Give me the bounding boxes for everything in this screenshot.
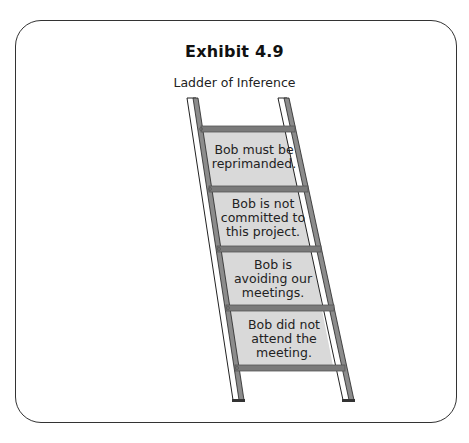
- ladder-rung-4: [209, 186, 308, 192]
- panel-line: attend the: [232, 332, 336, 346]
- ladder-rung-5: [201, 126, 295, 132]
- panel-line: avoiding our: [222, 272, 324, 286]
- ladder-panel-3-text: Bob is not committed to this project.: [214, 197, 312, 239]
- panel-line: Bob must be: [208, 143, 300, 157]
- ladder-rung-2: [226, 305, 334, 311]
- panel-line: meeting.: [232, 346, 336, 360]
- panel-line: reprimanded.: [208, 157, 300, 171]
- panel-line: Bob did not: [232, 318, 336, 332]
- panel-line: committed to: [214, 211, 312, 225]
- ladder-rung-1: [235, 365, 345, 371]
- ladder-panel-2-text: Bob is avoiding our meetings.: [222, 258, 324, 300]
- panel-line: Bob is: [222, 258, 324, 272]
- panel-line: Bob is not: [214, 197, 312, 211]
- ladder-panel-1-text: Bob did not attend the meeting.: [232, 318, 336, 360]
- panel-line: this project.: [214, 225, 312, 239]
- ladder-rung-3: [217, 246, 321, 252]
- panel-line: meetings.: [222, 286, 324, 300]
- ladder-panel-4-text: Bob must be reprimanded.: [208, 143, 300, 171]
